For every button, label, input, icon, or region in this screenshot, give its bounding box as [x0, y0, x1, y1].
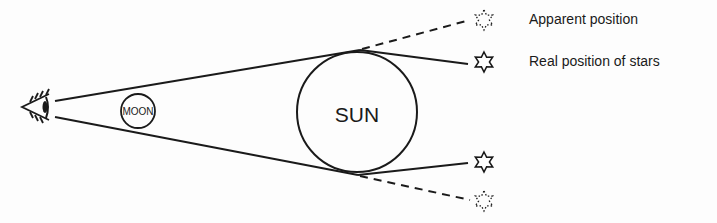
legend-real-position: Real position of stars: [529, 53, 660, 69]
apparent-path-top: [362, 20, 470, 49]
real-path-top: [360, 50, 468, 64]
sightline-top: [55, 50, 360, 101]
diagram-canvas: MOON SUN Apparent position Real position…: [0, 0, 717, 223]
apparent-path-bottom: [360, 176, 470, 200]
legend-apparent-position: Apparent position: [529, 11, 638, 27]
apparent-star-top-icon: [475, 10, 492, 30]
real-star-bottom-icon: [475, 152, 492, 172]
eye-icon: [22, 89, 49, 123]
moon-label: MOON: [122, 106, 153, 117]
sightline-bottom: [55, 117, 358, 175]
diagram-svg: MOON SUN: [0, 0, 717, 223]
sun-label: SUN: [335, 103, 379, 126]
real-star-top-icon: [475, 52, 492, 72]
apparent-star-bottom-icon: [475, 191, 492, 211]
